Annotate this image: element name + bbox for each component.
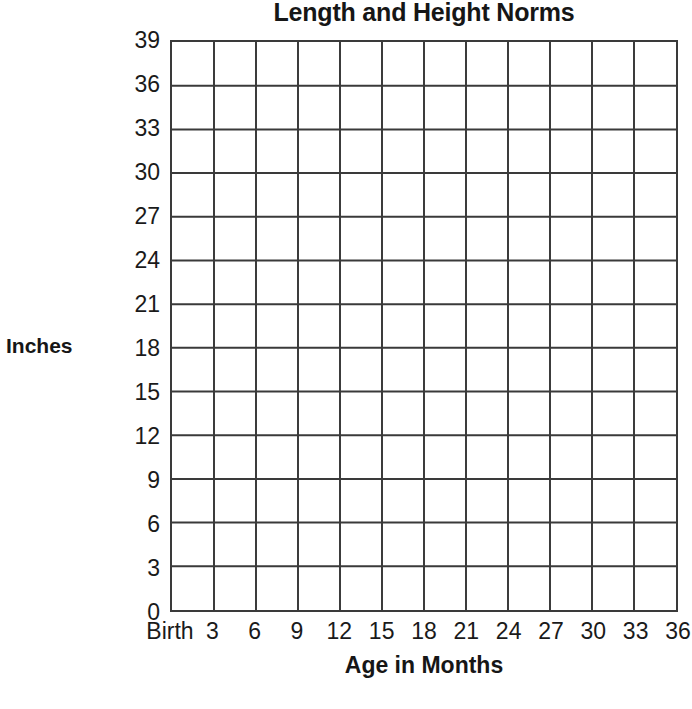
y-tick-label: 27 [98, 205, 160, 228]
y-tick-label: 12 [98, 425, 160, 448]
axis-tick-marks [160, 40, 172, 612]
y-tick-label: 24 [98, 249, 160, 272]
x-tick-label: 15 [369, 620, 395, 643]
y-tick-label: 21 [98, 293, 160, 316]
x-tick-label: 3 [206, 620, 219, 643]
y-tick-label: 33 [98, 117, 160, 140]
chart-title: Length and Height Norms [170, 0, 678, 27]
x-tick-label: 9 [291, 620, 304, 643]
y-tick-label: 30 [98, 161, 160, 184]
y-axis-title: Inches [6, 334, 73, 358]
x-tick-label: 18 [411, 620, 437, 643]
x-tick-label: 30 [581, 620, 607, 643]
x-tick-label: 36 [665, 620, 691, 643]
y-tick-label: 3 [98, 557, 160, 580]
x-tick-label: 6 [248, 620, 261, 643]
x-tick-label: 33 [623, 620, 649, 643]
grid-svg [172, 42, 676, 610]
x-tick-label: 21 [454, 620, 480, 643]
grid-vertical-lines [214, 42, 634, 610]
x-tick-label: Birth [146, 620, 193, 643]
y-tick-label: 9 [98, 469, 160, 492]
x-tick-label: 24 [496, 620, 522, 643]
x-axis-title: Age in Months [170, 652, 678, 679]
y-tick-label: 39 [98, 29, 160, 52]
x-tick-label: 12 [327, 620, 353, 643]
y-tick-label: 6 [98, 513, 160, 536]
plot-area [170, 40, 678, 612]
y-tick-label: 0 [98, 601, 160, 624]
x-tick-label: 27 [538, 620, 564, 643]
y-tick-label: 15 [98, 381, 160, 404]
y-tick-label: 36 [98, 73, 160, 96]
y-tick-label: 18 [98, 337, 160, 360]
